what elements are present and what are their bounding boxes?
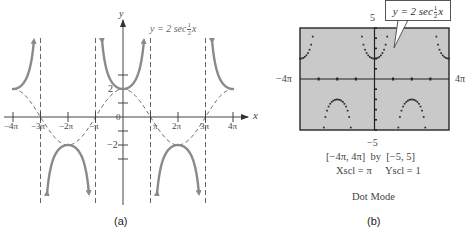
panel-a-caption: (a) <box>114 215 127 227</box>
y-axis-label: y <box>119 8 123 19</box>
plot-dot <box>442 54 444 56</box>
screen-y-tick <box>375 119 378 121</box>
x-tick-label: 4π <box>228 121 237 131</box>
secant-branch <box>47 145 89 193</box>
x-tick-label: −4π <box>4 121 18 131</box>
plot-dot <box>405 101 407 103</box>
plot-dot <box>436 36 438 38</box>
plot-dot <box>323 127 325 129</box>
plot-dot <box>416 101 418 103</box>
equation-prefix: y = 2 sec <box>150 23 186 34</box>
fraction-denominator: 2 <box>187 30 191 37</box>
plot-dot <box>386 36 388 38</box>
y-tick-label-2: 2 <box>108 83 113 94</box>
plot-dot <box>304 56 306 58</box>
mode-text: Dot Mode <box>352 191 395 202</box>
screen-x-tick <box>429 78 431 81</box>
screen-y-tick <box>375 37 378 39</box>
x-axis-label: x <box>253 109 258 121</box>
plot-dot <box>348 116 350 118</box>
plot-dot <box>334 99 336 101</box>
plot-dot <box>371 57 373 59</box>
window-range-text: [−4π, 4π] by [−5, 5] <box>326 151 415 162</box>
secant-branch <box>212 41 233 89</box>
plot-dot <box>301 58 303 60</box>
xmax-label: 4π <box>455 73 465 84</box>
yscl-text: Yscl = 1 <box>385 165 421 176</box>
secant-branch <box>13 41 34 89</box>
plot-dot <box>344 103 346 105</box>
plot-dot <box>423 116 425 118</box>
plot-dot <box>413 99 415 101</box>
plot-dot <box>372 58 374 60</box>
screen-y-tick <box>375 68 378 70</box>
plot-dot <box>329 103 331 105</box>
plot-dot <box>345 106 347 108</box>
plot-dot <box>418 103 420 105</box>
x-tick-label: 3π <box>200 121 209 131</box>
plot-dot <box>369 56 371 58</box>
plot-dot <box>336 99 338 101</box>
x-tick-label: π <box>153 121 158 131</box>
plot-dot <box>420 106 422 108</box>
plot-dot <box>309 49 311 51</box>
screen-x-tick <box>318 78 320 81</box>
fraction-denominator: 2 <box>434 13 438 20</box>
y-tick-label-minus-2: −2 <box>107 139 118 150</box>
screen-y-tick <box>375 48 378 50</box>
screen-x-tick <box>411 78 413 81</box>
plot-dot <box>380 54 382 56</box>
secant-branch <box>157 145 199 193</box>
plot-dot <box>439 49 441 51</box>
plot-dot <box>374 58 376 60</box>
plot-dot <box>312 36 314 38</box>
equation-fraction: 12 <box>187 22 191 37</box>
callout-fraction: 12 <box>434 5 438 20</box>
screen-y-tick <box>375 129 378 131</box>
plot-dot <box>399 116 401 118</box>
plot-dot <box>421 110 423 112</box>
plot-dot <box>375 58 377 60</box>
plot-dot <box>339 99 341 101</box>
plot-dot <box>445 57 447 59</box>
panel-b-calculator-screen <box>299 20 450 131</box>
callout-prefix: y = 2 sec <box>393 5 433 17</box>
xmin-label: −4π <box>276 73 292 84</box>
plot-dot <box>440 52 442 54</box>
x-tick-label: −3π <box>31 121 45 131</box>
plot-dot <box>424 127 426 129</box>
plot-dot <box>407 100 409 102</box>
screen-y-tick <box>375 27 378 29</box>
x-tick-label: −π <box>89 121 99 131</box>
plot-dot <box>302 57 304 59</box>
plot-dot <box>415 100 417 102</box>
plot-dot <box>412 99 414 101</box>
equation-label: y = 2 sec12x <box>150 22 196 37</box>
plot-dot <box>363 44 365 46</box>
plot-dot <box>397 127 399 129</box>
plot-dot <box>307 52 309 54</box>
plot-dot <box>367 54 369 56</box>
plot-dot <box>347 110 349 112</box>
equation-callout: y = 2 sec12x <box>385 0 451 21</box>
plot-dot <box>447 58 449 60</box>
plot-dot <box>366 52 368 54</box>
x-tick-label: −2π <box>59 121 73 131</box>
panel-b-caption: (b) <box>367 215 380 227</box>
plot-dot <box>325 116 327 118</box>
equation-variable: x <box>192 23 196 34</box>
plot-dot <box>328 106 330 108</box>
screen-y-tick <box>375 109 378 111</box>
plot-dot <box>448 58 450 60</box>
plot-dot <box>382 52 384 54</box>
plot-dot <box>401 110 403 112</box>
plot-dot <box>385 44 387 46</box>
plot-dot <box>299 58 301 60</box>
plot-dot <box>331 101 333 103</box>
plot-dot <box>378 56 380 58</box>
plot-dot <box>332 100 334 102</box>
ymax-label: 5 <box>370 12 375 23</box>
plot-dot <box>310 44 312 46</box>
plot-dot <box>409 99 411 101</box>
screen-y-tick <box>375 99 378 101</box>
